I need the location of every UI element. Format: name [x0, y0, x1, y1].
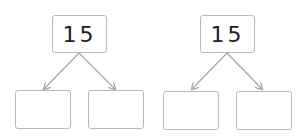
- arrow-left-2: [192, 53, 227, 89]
- root-box-2: 15: [200, 15, 255, 53]
- arrow-right-2: [227, 53, 262, 89]
- leaf-box-1-left[interactable]: [15, 90, 71, 129]
- leaf-box-2-right[interactable]: [236, 91, 292, 130]
- root-value-2: 15: [211, 22, 245, 47]
- arrow-left-1: [44, 53, 79, 89]
- arrow-right-1: [79, 53, 115, 89]
- leaf-box-2-left[interactable]: [163, 91, 219, 130]
- root-value-1: 15: [63, 22, 97, 47]
- leaf-box-1-right[interactable]: [88, 90, 144, 129]
- root-box-1: 15: [52, 15, 107, 53]
